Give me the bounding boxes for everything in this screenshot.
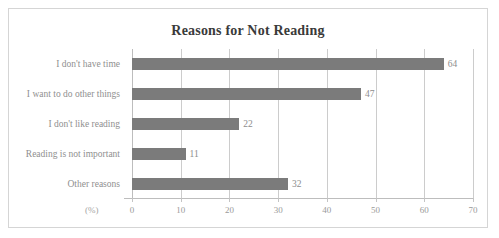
x-tick-label: 10 <box>169 205 193 215</box>
category-label: I want to do other things <box>27 89 120 99</box>
bar-row: I don't have time64 <box>124 49 473 79</box>
bar-row: I don't like reading22 <box>124 109 473 139</box>
x-tick-label: 50 <box>364 205 388 215</box>
bar-row: Reading is not important11 <box>124 139 473 169</box>
category-label: I don't like reading <box>48 119 120 129</box>
tick-mark-30 <box>278 198 279 202</box>
bar-value-label: 47 <box>365 89 375 99</box>
bar-row: Other reasons32 <box>124 169 473 199</box>
tick-mark-60 <box>424 198 425 202</box>
bar-value-label: 11 <box>190 149 199 159</box>
chart-title: Reasons for Not Reading <box>9 23 487 39</box>
tick-mark-20 <box>229 198 230 202</box>
bar <box>132 148 186 160</box>
category-label: I don't have time <box>56 59 120 69</box>
tick-mark-70 <box>473 198 474 202</box>
category-label: Reading is not important <box>26 149 120 159</box>
bar <box>132 118 239 130</box>
x-tick-label: 60 <box>412 205 436 215</box>
bar <box>132 58 444 70</box>
bar-value-label: 22 <box>243 119 253 129</box>
x-tick-label: 40 <box>315 205 339 215</box>
bar-value-label: 32 <box>292 179 302 189</box>
tick-mark-40 <box>327 198 328 202</box>
chart-frame: Reasons for Not Reading (%) I don't have… <box>8 8 488 228</box>
x-tick-label: 20 <box>217 205 241 215</box>
gridline-70 <box>473 49 474 199</box>
bar <box>132 178 288 190</box>
category-label: Other reasons <box>68 179 121 189</box>
x-tick-label: 0 <box>120 205 144 215</box>
tick-mark-0 <box>132 198 133 202</box>
plot-area: I don't have time64I want to do other th… <box>124 49 473 199</box>
x-tick-label: 30 <box>266 205 290 215</box>
tick-mark-10 <box>181 198 182 202</box>
x-axis-unit-label: (%) <box>85 205 99 215</box>
bar-row: I want to do other things47 <box>124 79 473 109</box>
tick-mark-50 <box>376 198 377 202</box>
bar <box>132 88 361 100</box>
x-tick-label: 70 <box>461 205 485 215</box>
bar-value-label: 64 <box>448 59 458 69</box>
